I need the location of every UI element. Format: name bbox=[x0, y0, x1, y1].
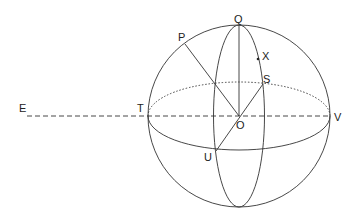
label-T: T bbox=[137, 102, 144, 114]
label-O: O bbox=[236, 119, 245, 131]
label-P: P bbox=[178, 31, 185, 43]
label-Q: Q bbox=[234, 13, 243, 25]
label-V: V bbox=[334, 111, 342, 123]
label-E: E bbox=[19, 102, 26, 114]
line-OP bbox=[185, 44, 239, 116]
sphere-diagram: Q P X S E T O V U bbox=[0, 0, 353, 222]
point-X bbox=[257, 58, 260, 61]
label-X: X bbox=[262, 50, 270, 62]
label-U: U bbox=[204, 151, 212, 163]
label-S: S bbox=[263, 73, 270, 85]
